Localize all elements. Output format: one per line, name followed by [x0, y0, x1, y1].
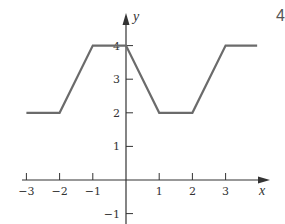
y-tick-label: −1: [104, 208, 120, 221]
x-tick-label: −1: [85, 185, 101, 198]
line-chart: −3−2−1123−11234xy4: [0, 0, 285, 224]
y-tick-label: 1: [113, 140, 120, 153]
y-tick-label: 3: [113, 73, 120, 86]
x-tick-label: 1: [156, 185, 163, 198]
x-tick-label: 2: [189, 185, 196, 198]
x-tick-label: 3: [222, 185, 229, 198]
x-axis-label: x: [258, 183, 266, 198]
x-tick-label: −2: [51, 185, 67, 198]
corner-label: 4: [276, 7, 285, 24]
series-line: [26, 46, 257, 113]
x-tick-label: −3: [18, 185, 34, 198]
y-axis-arrow-icon: [123, 13, 130, 25]
y-tick-label: 2: [113, 107, 120, 120]
y-axis-label: y: [131, 9, 140, 24]
